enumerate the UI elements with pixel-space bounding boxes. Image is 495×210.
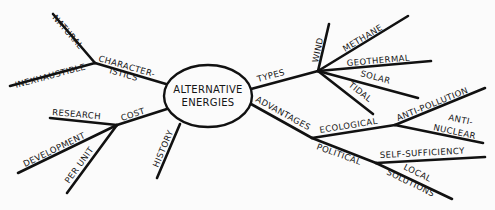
label-political: POLITICAL — [315, 141, 362, 166]
label-per-unit: PER UNIT — [63, 145, 96, 186]
mind-map: ALTERNATIVE ENERGIES CHARACTER- ISTICS N… — [0, 0, 495, 210]
label-inexhaustible: INEXHAUSTIBLE — [14, 61, 87, 89]
label-methane: METHANE — [341, 22, 384, 54]
branch-development — [18, 125, 117, 173]
label-natural: NATURAL — [50, 13, 85, 51]
central-label-line2: ENERGIES — [182, 97, 235, 108]
central-node — [164, 65, 252, 127]
label-advantages: ADVANTAGES — [254, 94, 312, 132]
central-label-line1: ALTERNATIVE — [173, 84, 242, 95]
